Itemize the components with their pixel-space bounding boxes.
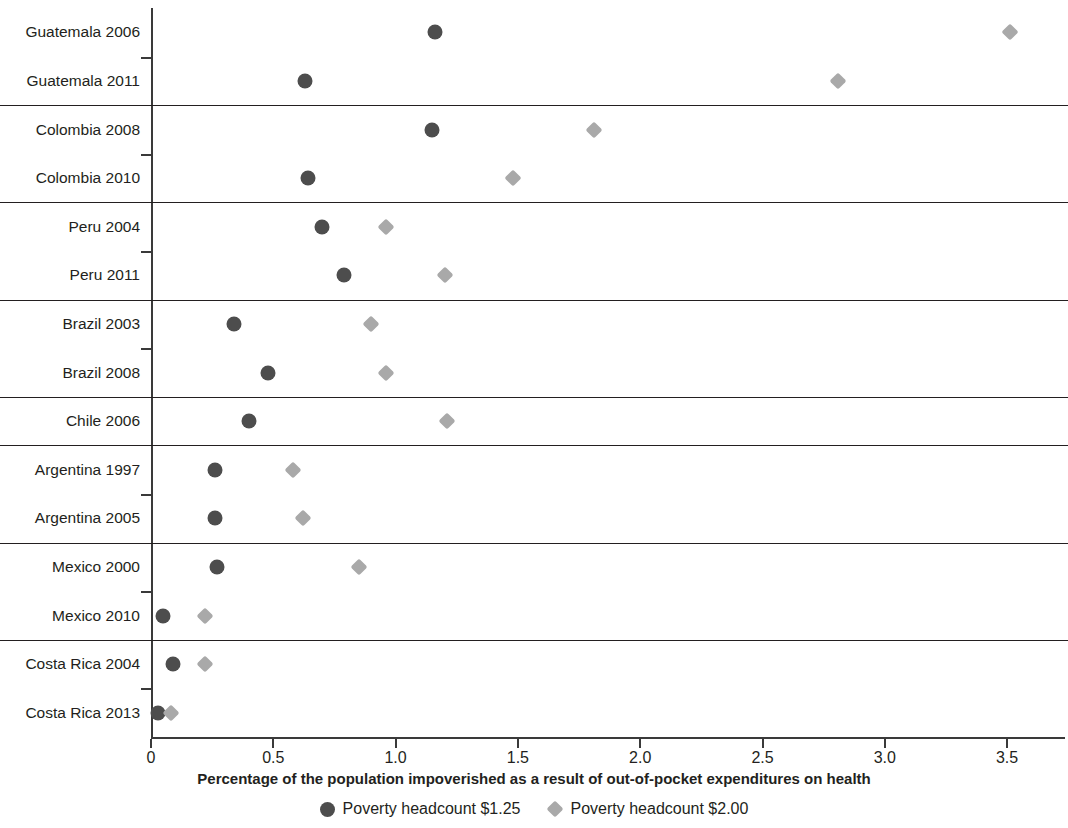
x-axis-tick (639, 739, 641, 748)
x-axis-tick-label: 1.5 (507, 749, 529, 767)
legend-diamond-icon (546, 801, 563, 818)
data-point-circle (425, 122, 440, 137)
legend-item[interactable]: Poverty headcount $1.25 (320, 800, 521, 818)
data-point-circle (427, 25, 442, 40)
data-point-diamond (363, 315, 380, 332)
category-label: Colombia 2010 (0, 169, 140, 187)
legend-label: Poverty headcount $2.00 (571, 800, 749, 818)
data-point-circle (207, 511, 222, 526)
category-label: Peru 2004 (0, 218, 140, 236)
x-axis-line (151, 737, 1065, 739)
data-point-diamond (505, 170, 522, 187)
x-axis-title: Percentage of the population impoverishe… (0, 770, 1068, 787)
x-axis-tick-label: 3.0 (874, 749, 896, 767)
data-point-diamond (377, 218, 394, 235)
data-point-diamond (162, 704, 179, 721)
category-label: Brazil 2003 (0, 315, 140, 333)
x-axis-tick (1006, 739, 1008, 748)
chart-root: Guatemala 2006Guatemala 2011Colombia 200… (0, 0, 1068, 828)
data-point-circle (207, 462, 222, 477)
x-axis-tick-label: 0.5 (262, 749, 284, 767)
plot-area: Guatemala 2006Guatemala 2011Colombia 200… (0, 0, 1068, 760)
y-axis-tick (141, 688, 152, 690)
y-axis-tick (141, 591, 152, 593)
legend-item[interactable]: Poverty headcount $2.00 (547, 800, 749, 818)
category-label: Chile 2006 (0, 412, 140, 430)
data-point-diamond (377, 364, 394, 381)
x-axis-tick (150, 739, 152, 748)
category-label: Mexico 2010 (0, 607, 140, 625)
x-axis-tick-label: 2.0 (629, 749, 651, 767)
data-point-diamond (1001, 24, 1018, 41)
x-axis-tick (272, 739, 274, 748)
group-separator-line (0, 445, 1068, 446)
category-label: Argentina 2005 (0, 509, 140, 527)
category-label: Peru 2011 (0, 266, 140, 284)
data-point-circle (337, 268, 352, 283)
x-axis-tick (517, 739, 519, 748)
data-point-diamond (196, 656, 213, 673)
data-point-diamond (585, 121, 602, 138)
data-point-diamond (294, 510, 311, 527)
data-point-diamond (284, 461, 301, 478)
x-axis-tick-label: 3.5 (996, 749, 1018, 767)
group-separator-line (0, 105, 1068, 106)
x-axis-tick-label: 1.0 (384, 749, 406, 767)
x-axis-tick (762, 739, 764, 748)
data-point-diamond (436, 267, 453, 284)
data-point-circle (156, 608, 171, 623)
y-axis-tick (141, 251, 152, 253)
data-point-circle (241, 414, 256, 429)
category-label: Costa Rica 2013 (0, 704, 140, 722)
data-point-circle (210, 559, 225, 574)
category-label: Guatemala 2011 (0, 72, 140, 90)
data-point-circle (315, 219, 330, 234)
chart-legend: Poverty headcount $1.25Poverty headcount… (0, 800, 1068, 818)
y-axis-tick (141, 494, 152, 496)
group-separator-line (0, 397, 1068, 398)
y-axis-tick (141, 57, 152, 59)
data-point-circle (166, 657, 181, 672)
x-axis-tick (395, 739, 397, 748)
category-label: Costa Rica 2004 (0, 655, 140, 673)
group-separator-line (0, 640, 1068, 641)
data-point-diamond (830, 72, 847, 89)
data-point-circle (300, 171, 315, 186)
data-point-circle (227, 316, 242, 331)
y-axis-tick (141, 154, 152, 156)
data-point-diamond (438, 413, 455, 430)
category-label: Brazil 2008 (0, 364, 140, 382)
group-separator-line (0, 300, 1068, 301)
y-axis-line (151, 8, 153, 738)
data-point-diamond (350, 558, 367, 575)
category-label: Guatemala 2006 (0, 23, 140, 41)
data-point-diamond (196, 607, 213, 624)
category-label: Mexico 2000 (0, 558, 140, 576)
x-axis-tick (884, 739, 886, 748)
x-axis-tick-label: 2.5 (751, 749, 773, 767)
data-point-circle (298, 73, 313, 88)
category-label: Argentina 1997 (0, 461, 140, 479)
category-label: Colombia 2008 (0, 121, 140, 139)
data-point-circle (261, 365, 276, 380)
legend-circle-icon (320, 802, 335, 817)
group-separator-line (0, 202, 1068, 203)
x-axis-tick-label: 0 (147, 749, 156, 767)
group-separator-line (0, 543, 1068, 544)
legend-label: Poverty headcount $1.25 (343, 800, 521, 818)
y-axis-tick (141, 348, 152, 350)
